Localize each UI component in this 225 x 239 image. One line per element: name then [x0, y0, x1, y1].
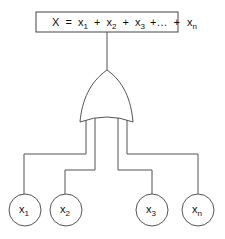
- input-x1: x1: [9, 194, 41, 226]
- or-gate-icon: [80, 70, 133, 122]
- input-x2: x2: [50, 194, 82, 226]
- input-xn: xn: [182, 194, 214, 226]
- input-wires: [24, 118, 198, 194]
- or-gate-diagram: X = x1 + x2 + x3 +… + xn x1 x2 x3: [0, 0, 225, 239]
- input-x3: x3: [136, 194, 168, 226]
- equation-box: X = x1 + x2 + x3 +… + xn: [36, 12, 197, 32]
